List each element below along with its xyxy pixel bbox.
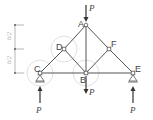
member-cd	[40, 49, 64, 73]
node-label-e: E	[135, 64, 141, 74]
load-arrow-a	[84, 5, 89, 22]
dimension-label-upper: h/2	[6, 32, 12, 40]
member-fb	[86, 49, 109, 73]
reaction-arrow-c	[38, 86, 43, 103]
node-label-f: F	[111, 39, 117, 49]
pin-support-c	[35, 75, 45, 82]
joint-a	[84, 23, 88, 27]
member-db	[64, 49, 86, 73]
node-label-a: A	[78, 19, 84, 29]
dimension-line	[15, 25, 24, 73]
member-fe	[109, 49, 133, 73]
pin-support-e	[128, 75, 138, 82]
truss-svg: h/2 h/2	[0, 0, 153, 120]
truss-members	[40, 25, 133, 73]
joint-d	[62, 47, 66, 51]
load-label-p-top: P	[88, 3, 95, 13]
truss-diagram: h/2 h/2	[0, 0, 153, 120]
reaction-arrow-e	[131, 86, 136, 103]
node-label-d: D	[56, 42, 63, 52]
reaction-label-p-left: P	[35, 105, 42, 115]
load-label-p-bottom: P	[88, 87, 95, 97]
reaction-label-p-right: P	[129, 105, 136, 115]
node-label-c: C	[34, 64, 41, 74]
node-label-b: B	[80, 75, 86, 85]
dimension-label-lower: h/2	[6, 56, 12, 64]
member-af	[86, 25, 109, 49]
